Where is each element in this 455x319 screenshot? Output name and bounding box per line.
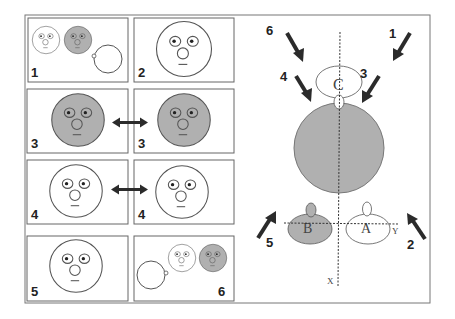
panel-label-4b: 4 xyxy=(138,207,146,222)
panel-6: 6 xyxy=(134,236,234,301)
panel-label-5: 5 xyxy=(31,284,38,299)
label-b: B xyxy=(303,221,312,236)
panel-4-left: 4 xyxy=(27,160,128,224)
axis-label-x: X xyxy=(327,276,334,286)
arrow-label-3: 3 xyxy=(360,66,367,81)
panel-3-right: 3 xyxy=(134,89,234,153)
panel-3-left: 3 xyxy=(27,89,128,153)
panel-2: 2 xyxy=(134,18,234,82)
panel-label-4a: 4 xyxy=(31,207,39,222)
axis-label-y: Y xyxy=(392,226,399,236)
arrow-label-2: 2 xyxy=(407,237,414,252)
panel-1: 1 xyxy=(28,18,128,82)
panel-label-3a: 3 xyxy=(31,136,38,151)
panel-label-1: 1 xyxy=(31,65,38,80)
panel-5: 5 xyxy=(27,236,128,301)
label-c: C xyxy=(333,76,344,93)
panel-label-6: 6 xyxy=(218,284,225,299)
arrow-label-6: 6 xyxy=(266,23,273,38)
panel-4-right: 4 xyxy=(134,160,234,224)
arrow-label-4: 4 xyxy=(280,69,288,84)
arrow-label-5: 5 xyxy=(266,235,273,250)
experimental-setup-figure: 1 2 3 3 4 4 xyxy=(0,0,455,319)
panel-label-3b: 3 xyxy=(138,136,145,151)
arrow-label-1: 1 xyxy=(389,26,396,41)
panel-label-2: 2 xyxy=(138,65,145,80)
